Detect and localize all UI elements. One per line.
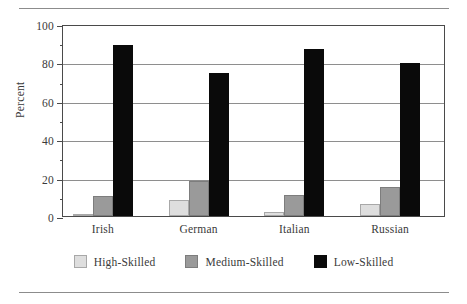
bar (189, 181, 209, 216)
plot-frame: 020406080100 IrishGermanItalianRussian (62, 25, 445, 217)
y-axis-minor-tick (60, 84, 63, 85)
bar (169, 200, 189, 216)
y-axis-major-tick (57, 26, 63, 27)
x-axis-tick-label: German (180, 223, 218, 235)
chart-area: 020406080100 IrishGermanItalianRussian (0, 14, 467, 246)
legend-label: High-Skilled (94, 256, 156, 268)
y-axis-major-tick (57, 103, 63, 104)
y-axis-major-tick (57, 141, 63, 142)
legend-item[interactable]: High-Skilled (74, 255, 156, 268)
bar (209, 73, 229, 216)
bar-group (169, 26, 229, 216)
y-axis-minor-tick (60, 160, 63, 161)
y-axis-major-tick (57, 180, 63, 181)
legend-label: Low-Skilled (334, 256, 394, 268)
y-axis-minor-tick (60, 199, 63, 200)
bar (380, 187, 400, 216)
bar (264, 212, 284, 216)
y-axis-tick-label: 0 (48, 212, 54, 224)
legend-item[interactable]: Low-Skilled (314, 255, 394, 268)
bar (73, 214, 93, 216)
y-axis-tick-label: 80 (42, 58, 54, 70)
legend-swatch-icon (314, 255, 327, 268)
bar-group (264, 26, 324, 216)
y-axis-tick-label: 20 (42, 174, 54, 186)
bar (360, 204, 380, 216)
bar (284, 195, 304, 216)
figure-rule-bottom (19, 292, 449, 293)
y-axis-tick-label: 40 (42, 135, 54, 147)
legend-item[interactable]: Medium-Skilled (185, 255, 283, 268)
x-axis-tick-label: Italian (279, 223, 310, 235)
chart-legend: High-SkilledMedium-SkilledLow-Skilled (0, 255, 467, 268)
y-axis-tick-label: 60 (42, 97, 54, 109)
figure: Percent 020406080100 IrishGermanItalianR… (0, 0, 467, 304)
legend-swatch-icon (74, 255, 87, 268)
x-axis-tick-label: Irish (92, 223, 114, 235)
legend-swatch-icon (185, 255, 198, 268)
bar-group (73, 26, 133, 216)
y-axis-minor-tick (60, 122, 63, 123)
bar (113, 45, 133, 216)
y-axis-minor-tick (60, 45, 63, 46)
x-axis-tick-label: Russian (371, 223, 409, 235)
bar (304, 49, 324, 216)
y-axis-tick-label: 100 (36, 20, 54, 32)
y-axis-major-tick (57, 64, 63, 65)
bar (400, 63, 420, 216)
bar-group (360, 26, 420, 216)
figure-rule-top (19, 8, 449, 9)
legend-label: Medium-Skilled (205, 256, 283, 268)
bar (93, 196, 113, 216)
y-axis-major-tick (57, 218, 63, 219)
